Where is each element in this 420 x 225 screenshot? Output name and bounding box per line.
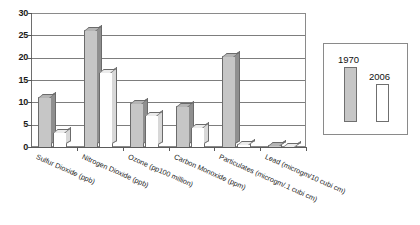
y-axis-tick bbox=[27, 125, 32, 126]
bar-2006-1 bbox=[99, 72, 113, 148]
bar-side-face bbox=[112, 67, 117, 144]
bar-top-face bbox=[237, 141, 254, 145]
bar-1970-3 bbox=[176, 106, 190, 148]
legend-swatch-2006 bbox=[376, 84, 389, 122]
y-axis-tick-label: 15 bbox=[4, 76, 28, 85]
chart-legend: 1970 2006 bbox=[323, 43, 408, 135]
plot-area bbox=[31, 13, 306, 147]
x-axis-tick bbox=[77, 147, 78, 151]
bar-side-face bbox=[235, 51, 240, 144]
legend-swatch-1970 bbox=[344, 67, 357, 122]
bar-1970-2 bbox=[130, 103, 144, 148]
y-axis-tick-label: 30 bbox=[4, 9, 28, 18]
legend-label-1970: 1970 bbox=[338, 55, 359, 65]
bar-2006-2 bbox=[145, 115, 159, 149]
y-axis-tick-label: 20 bbox=[4, 53, 28, 62]
y-axis-tick-label: 0 bbox=[4, 143, 28, 152]
x-axis-tick bbox=[169, 147, 170, 151]
gridline bbox=[32, 102, 305, 103]
y-axis-tick bbox=[27, 35, 32, 36]
x-axis-tick bbox=[260, 147, 261, 151]
bar-2006-0 bbox=[53, 132, 67, 148]
y-axis-tick bbox=[27, 58, 32, 59]
bar-1970-0 bbox=[38, 97, 52, 148]
y-axis-tick-label: 5 bbox=[4, 120, 28, 129]
gridline bbox=[32, 58, 305, 59]
x-axis-tick bbox=[214, 147, 215, 151]
y-axis-tick bbox=[27, 102, 32, 103]
gridline bbox=[32, 35, 305, 36]
y-axis-tick-label: 10 bbox=[4, 98, 28, 107]
air-quality-bar-chart: 051015202530 Sulfur Dioxide (ppb)Nitroge… bbox=[0, 0, 420, 225]
y-axis-tick-label: 25 bbox=[4, 31, 28, 40]
bar-2006-3 bbox=[191, 127, 205, 148]
bar-1970-4 bbox=[222, 56, 236, 148]
y-axis-tick bbox=[27, 13, 32, 14]
x-axis-tick bbox=[306, 147, 307, 151]
bar-1970-1 bbox=[84, 30, 98, 148]
gridline bbox=[32, 80, 305, 81]
y-axis-tick bbox=[27, 80, 32, 81]
gridline bbox=[32, 125, 305, 126]
legend-label-2006: 2006 bbox=[369, 72, 390, 82]
y-axis-tick bbox=[27, 147, 32, 148]
x-axis-tick bbox=[123, 147, 124, 151]
